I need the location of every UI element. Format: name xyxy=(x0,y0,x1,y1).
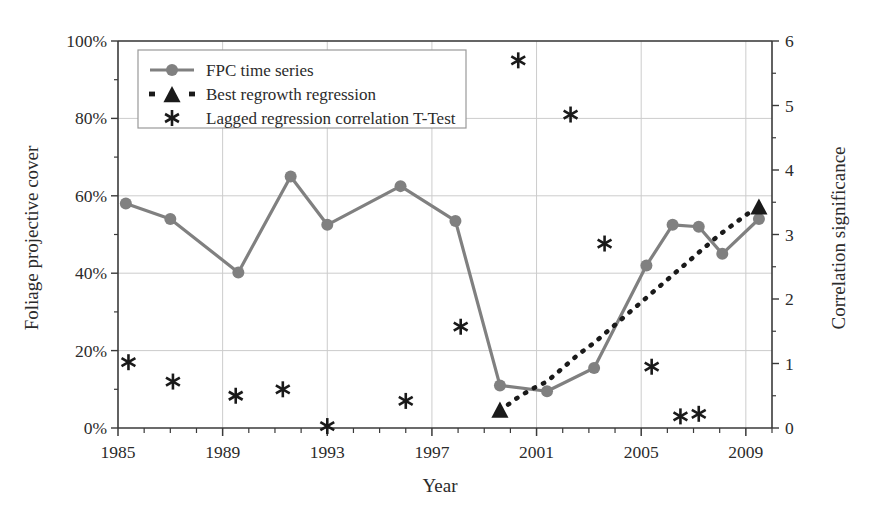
fpc-data-point xyxy=(449,215,461,227)
legend-dash-left xyxy=(149,92,155,97)
y2-axis-label: Correlation significance xyxy=(828,146,849,329)
y2-tick-label: 2 xyxy=(785,289,794,309)
y2-tick-label: 3 xyxy=(785,225,794,245)
legend-dash-right xyxy=(189,92,195,97)
x-tick-label: 1989 xyxy=(205,442,240,462)
x-axis-label: Year xyxy=(422,475,458,496)
y-tick-label: 40% xyxy=(75,263,107,283)
fpc-data-point xyxy=(321,219,333,231)
chart-canvas: 0%20%40%60%80%100%0123456198519891993199… xyxy=(0,0,878,512)
fpc-data-point xyxy=(667,219,679,231)
legend-circle-icon xyxy=(166,64,178,76)
y-tick-label: 80% xyxy=(75,108,107,128)
fpc-data-point xyxy=(753,213,765,225)
fpc-data-point xyxy=(640,259,652,271)
y-tick-label: 60% xyxy=(75,186,107,206)
x-tick-label: 2005 xyxy=(624,442,659,462)
legend-item-3[interactable]: Lagged regression correlation T-Test xyxy=(165,109,456,128)
fpc-data-point xyxy=(541,385,553,397)
fpc-data-point xyxy=(693,221,705,233)
y-tick-label: 20% xyxy=(75,341,107,361)
fpc-data-point xyxy=(588,362,600,374)
y-tick-label: 100% xyxy=(66,31,107,51)
fpc-data-point xyxy=(164,213,176,225)
fpc-data-point xyxy=(120,198,132,210)
y2-tick-label: 1 xyxy=(785,354,794,374)
x-tick-label: 1993 xyxy=(310,442,345,462)
x-tick-label: 1997 xyxy=(414,442,449,462)
y2-tick-label: 6 xyxy=(785,31,794,51)
fpc-data-point xyxy=(716,248,728,260)
legend-label: Best regrowth regression xyxy=(206,85,376,104)
y2-tick-label: 4 xyxy=(785,160,794,180)
y-tick-label: 0% xyxy=(84,418,107,438)
fpc-data-point xyxy=(285,170,297,182)
x-tick-label: 2009 xyxy=(728,442,763,462)
x-tick-label: 1985 xyxy=(101,442,136,462)
y2-tick-label: 0 xyxy=(785,418,794,438)
legend-label: FPC time series xyxy=(206,61,314,80)
fpc-data-point xyxy=(232,266,244,278)
fpc-data-point xyxy=(494,379,506,391)
chart-figure: 0%20%40%60%80%100%0123456198519891993199… xyxy=(0,0,878,512)
chart-legend: FPC time seriesBest regrowth regressionL… xyxy=(138,50,466,128)
y-axis-label: Foliage projective cover xyxy=(21,145,42,330)
fpc-data-point xyxy=(395,180,407,192)
x-tick-label: 2001 xyxy=(519,442,554,462)
y2-tick-label: 5 xyxy=(785,96,794,116)
legend-label: Lagged regression correlation T-Test xyxy=(206,109,456,128)
